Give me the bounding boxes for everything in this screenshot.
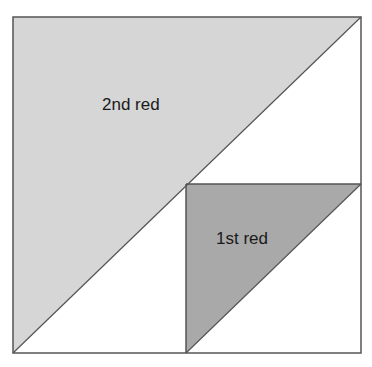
second-red-label: 2nd red xyxy=(102,95,160,114)
diagram-canvas: 2nd red 1st red xyxy=(0,0,372,367)
first-red-label: 1st red xyxy=(216,229,268,248)
